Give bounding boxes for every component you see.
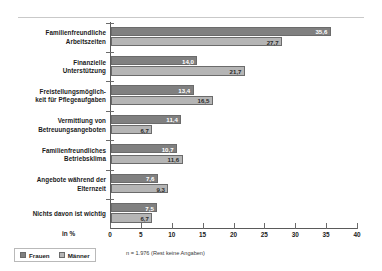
bar-frauen: 7,6: [111, 174, 158, 183]
bar-maenner: 11,6: [111, 155, 183, 164]
x-axis-tick: [357, 223, 358, 229]
chart-legend: Frauen Männer: [14, 248, 96, 262]
category-label-line: Unterstützung: [2, 67, 106, 75]
bar-group: FamilienfreundlichesBetriebsklima10,711,…: [0, 140, 382, 169]
category-label-line: Familienfreundliche: [2, 29, 106, 37]
category-label-line: Elternzeit: [2, 184, 106, 192]
x-axis-unit-label: in %: [62, 230, 75, 237]
category-label: Vermittlung vonBetreuungsangeboten: [2, 117, 106, 134]
category-label: FamilienfreundlichesBetriebsklima: [2, 146, 106, 163]
legend-item-maenner: Männer: [59, 252, 90, 259]
y-axis-tick: [106, 140, 114, 141]
bar-value-label: 7,6: [146, 175, 154, 182]
x-axis-tick: [234, 223, 235, 229]
x-axis-tick-label: 35: [314, 231, 338, 238]
x-axis-tick-label: 15: [191, 231, 215, 238]
y-axis-tick: [106, 199, 114, 200]
bar-group: FamilienfreundlicheArbeitszeiten35,627,7: [0, 23, 382, 52]
chart-footnote: n = 1.976 (Rest keine Angaben): [126, 250, 205, 256]
category-label-line: Vermittlung von: [2, 117, 106, 125]
x-axis-tick-label: 25: [252, 231, 276, 238]
category-label: FinanzielleUnterstützung: [2, 58, 106, 75]
bar-value-label: 9,3: [156, 185, 164, 192]
category-label-line: Freistellungsmöglich-: [2, 88, 106, 96]
bar-frauen: 14,0: [111, 56, 197, 65]
bar-value-label: 16,5: [198, 97, 210, 104]
x-axis-tick-label: 20: [222, 231, 246, 238]
legend-label-frauen: Frauen: [29, 252, 50, 259]
x-axis-tick: [203, 223, 204, 229]
bar-value-label: 11,4: [166, 116, 178, 123]
category-label-line: Finanzielle: [2, 58, 106, 66]
bar-frauen: 13,4: [111, 85, 194, 94]
bar-value-label: 10,7: [162, 145, 174, 152]
bar-maenner: 6,7: [111, 213, 152, 222]
bar-value-label: 14,0: [182, 57, 194, 64]
category-label-line: Arbeitszeiten: [2, 37, 106, 45]
bar-group: Angebote während derElternzeit7,69,3: [0, 170, 382, 199]
category-label-line: Betriebsklima: [2, 155, 106, 163]
y-axis-tick: [106, 81, 114, 82]
category-label: Angebote während derElternzeit: [2, 176, 106, 193]
x-axis-tick: [295, 223, 296, 229]
legend-swatch-maenner: [59, 252, 65, 258]
bar-frauen: 10,7: [111, 144, 177, 153]
y-axis-tick: [106, 170, 114, 171]
bar-frauen: 35,6: [111, 27, 331, 36]
x-axis-tick: [110, 223, 111, 229]
plot-area: FamilienfreundlicheArbeitszeiten35,627,7…: [0, 22, 382, 228]
bar-frauen: 11,4: [111, 115, 181, 124]
bar-maenner: 6,7: [111, 125, 152, 134]
bar-maenner: 27,7: [111, 37, 282, 46]
bar-group: Vermittlung vonBetreuungsangeboten11,46,…: [0, 111, 382, 140]
bar-maenner: 9,3: [111, 184, 168, 193]
header-divider: [18, 17, 364, 18]
category-label-line: Nichts davon ist wichtig: [2, 209, 106, 217]
x-axis-tick: [264, 223, 265, 229]
bar-value-label: 7,5: [145, 204, 153, 211]
x-axis-tick-label: 40: [345, 231, 369, 238]
y-axis-tick: [106, 111, 114, 112]
x-axis-tick: [141, 223, 142, 229]
bar-maenner: 16,5: [111, 96, 213, 105]
bar-group: Freistellungsmöglich-keit für Pflegeaufg…: [0, 81, 382, 110]
bar-value-label: 21,7: [230, 68, 242, 75]
bar-value-label: 6,7: [140, 126, 148, 133]
bar-value-label: 13,4: [178, 87, 190, 94]
category-label: FamilienfreundlicheArbeitszeiten: [2, 29, 106, 46]
x-axis-tick-label: 0: [98, 231, 122, 238]
bar-value-label: 11,6: [168, 156, 180, 163]
bar-maenner: 21,7: [111, 66, 245, 75]
category-label: Nichts davon ist wichtig: [2, 209, 106, 217]
x-axis-tick: [172, 223, 173, 229]
category-label-line: keit für Pflegeaufgaben: [2, 96, 106, 104]
bar-value-label: 6,7: [140, 215, 148, 222]
legend-item-frauen: Frauen: [20, 252, 50, 259]
bar-frauen: 7,5: [111, 203, 157, 212]
bar-value-label: 27,7: [267, 38, 279, 45]
bar-chart-figure: FamilienfreundlicheArbeitszeiten35,627,7…: [0, 0, 382, 271]
category-label-line: Betreuungsangeboten: [2, 125, 106, 133]
bar-group: Nichts davon ist wichtig7,56,7: [0, 199, 382, 228]
category-label-line: Familienfreundliches: [2, 146, 106, 154]
category-label-line: Angebote während der: [2, 176, 106, 184]
legend-swatch-frauen: [20, 252, 26, 258]
x-axis-tick-label: 10: [160, 231, 184, 238]
x-axis-tick: [326, 223, 327, 229]
category-label: Freistellungsmöglich-keit für Pflegeaufg…: [2, 88, 106, 105]
x-axis-tick-label: 30: [283, 231, 307, 238]
x-axis-tick-label: 5: [129, 231, 153, 238]
legend-label-maenner: Männer: [68, 252, 90, 259]
y-axis-tick: [106, 52, 114, 53]
y-axis-tick: [106, 23, 114, 24]
bar-value-label: 35,6: [315, 28, 327, 35]
bar-group: FinanzielleUnterstützung14,021,7: [0, 52, 382, 81]
